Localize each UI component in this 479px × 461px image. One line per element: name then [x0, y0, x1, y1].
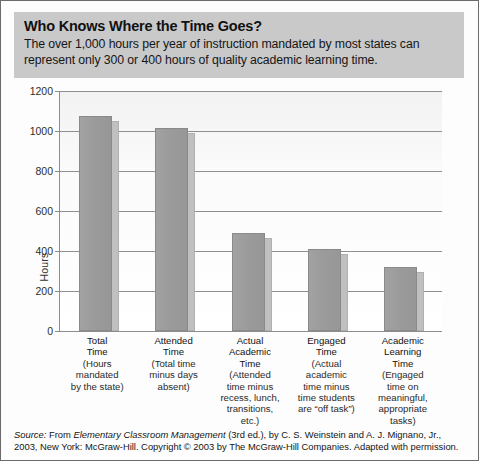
x-axis-label-line: mandated: [59, 369, 135, 380]
x-axis-label: ActualAcademicTime(Attendedtime minusrec…: [212, 335, 288, 426]
header-banner: Who Knows Where the Time Goes? The over …: [14, 12, 464, 78]
x-axis-label: AcademicLearningTime(Engagedtime onmeani…: [365, 335, 441, 426]
x-axis-label-line: meaningful,: [365, 392, 441, 403]
bar-side-face: [265, 238, 272, 331]
y-axis-tick-label: 800: [7, 165, 53, 177]
x-axis-category-labels: TotalTime(Hoursmandatedby the state)Atte…: [59, 335, 441, 421]
x-axis-label-line: minus days: [135, 369, 211, 380]
x-axis-label-line: by the state): [59, 381, 135, 392]
bar: [155, 128, 188, 331]
x-axis-label: EngagedTime(Actualacademictime minustime…: [288, 335, 364, 415]
x-axis-label-line: Total: [59, 335, 135, 346]
bar: [232, 233, 265, 331]
bar-chart: Hours 020040060080010001200 TotalTime(Ho…: [1, 81, 479, 421]
x-axis-label-line: (Engaged: [365, 369, 441, 380]
y-axis-tick-label: 1000: [7, 125, 53, 137]
bar: [384, 267, 417, 331]
x-axis-label-line: Academic: [365, 335, 441, 346]
bar-front-face: [384, 267, 417, 331]
bar-side-face: [341, 254, 348, 331]
bar-side-face: [112, 121, 119, 331]
x-axis-label-line: time minus: [212, 381, 288, 392]
bar: [308, 249, 341, 331]
x-axis-label-line: (Total time: [135, 358, 211, 369]
x-axis-label-line: Time: [212, 358, 288, 369]
x-axis-label-line: etc.): [212, 415, 288, 426]
page-title: Who Knows Where the Time Goes?: [24, 17, 454, 36]
x-axis-label-line: (Hours: [59, 358, 135, 369]
x-axis-label-line: transitions,: [212, 403, 288, 414]
plot-area: [59, 91, 442, 332]
bar-front-face: [232, 233, 265, 331]
x-axis-label-line: recess, lunch,: [212, 392, 288, 403]
x-axis-label-line: Actual: [212, 335, 288, 346]
source-label: Source:: [14, 429, 46, 440]
x-axis-label-line: Academic: [212, 346, 288, 357]
source-citation: Source: From Elementary Classroom Manage…: [14, 429, 466, 453]
y-axis-tick-label: 400: [7, 245, 53, 257]
x-axis-label-line: Attended: [135, 335, 211, 346]
bar-front-face: [79, 116, 112, 331]
header-subtitle: The over 1,000 hours per year of instruc…: [24, 37, 454, 68]
x-axis-label-line: (Attended: [212, 369, 288, 380]
x-axis-label-line: Time: [59, 346, 135, 357]
x-axis-label-line: tasks): [365, 415, 441, 426]
bar-side-face: [188, 133, 195, 331]
bar: [79, 116, 112, 331]
x-axis-label-line: Time: [135, 346, 211, 357]
x-axis-label-line: are “off task”): [288, 403, 364, 414]
source-text-before: From: [46, 429, 73, 440]
bar-side-face: [417, 272, 424, 331]
source-book-title: Elementary Classroom Management: [73, 429, 225, 440]
gridline: [60, 91, 442, 92]
x-axis-label-line: Learning: [365, 346, 441, 357]
x-axis-label-line: Time: [288, 346, 364, 357]
x-axis-label-line: time on: [365, 381, 441, 392]
x-axis-label-line: Engaged: [288, 335, 364, 346]
y-axis-title: Hours: [38, 222, 50, 312]
figure-panel: Who Knows Where the Time Goes? The over …: [0, 0, 479, 461]
x-axis-label-line: Time: [365, 358, 441, 369]
x-axis-label-line: time minus: [288, 381, 364, 392]
x-axis-label-line: absent): [135, 381, 211, 392]
x-axis-label-line: academic: [288, 369, 364, 380]
x-axis-label-line: appropriate: [365, 403, 441, 414]
y-axis-tick-label: 1200: [7, 85, 53, 97]
bar-front-face: [155, 128, 188, 331]
y-axis-tick-label: 600: [7, 205, 53, 217]
y-axis-tick-label: 200: [7, 285, 53, 297]
x-axis-label-line: (Actual: [288, 358, 364, 369]
x-axis-label-line: time students: [288, 392, 364, 403]
x-axis-label: AttendedTime(Total timeminus daysabsent): [135, 335, 211, 392]
bar-front-face: [308, 249, 341, 331]
y-axis-tick-label: 0: [7, 325, 53, 337]
x-axis-label: TotalTime(Hoursmandatedby the state): [59, 335, 135, 392]
